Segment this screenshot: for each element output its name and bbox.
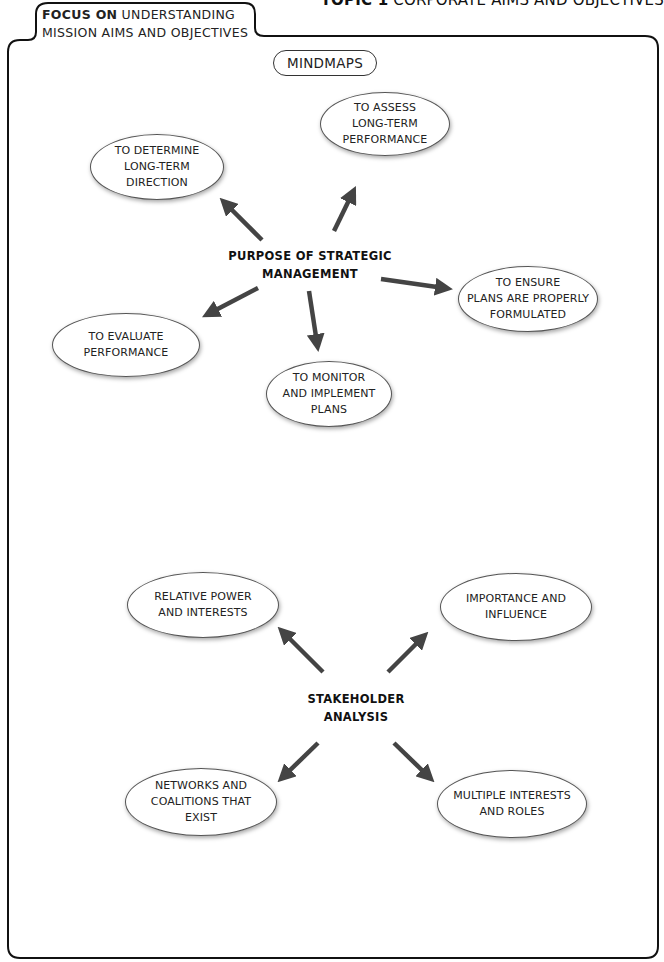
focus-rest: UNDERSTANDING [117, 7, 235, 22]
topic-header: TOPIC 1 CORPORATE AIMS AND OBJECTIVES [321, 0, 664, 9]
center-purpose-of-strategic-management: PURPOSE OF STRATEGIC MANAGEMENT [222, 247, 398, 283]
node-text: TO DETERMINE LONG-TERM DIRECTION [115, 143, 200, 191]
section-label-pill: MINDMAPS [273, 50, 377, 76]
topic-title: CORPORATE AIMS AND OBJECTIVES [393, 0, 664, 9]
node-text: RELATIVE POWER AND INTERESTS [154, 589, 252, 621]
node-text: TO MONITOR AND IMPLEMENT PLANS [283, 370, 376, 418]
node-multiple-interests: MULTIPLE INTERESTS AND ROLES [437, 770, 587, 838]
node-text: MULTIPLE INTERESTS AND ROLES [453, 788, 571, 820]
node-text: TO ASSESS LONG-TERM PERFORMANCE [343, 100, 428, 148]
node-ensure-plans: TO ENSURE PLANS ARE PROPERLY FORMULATED [458, 266, 598, 332]
node-relative-power: RELATIVE POWER AND INTERESTS [127, 572, 279, 638]
node-evaluate-performance: TO EVALUATE PERFORMANCE [52, 313, 200, 377]
node-text: TO EVALUATE PERFORMANCE [84, 329, 169, 361]
node-determine-direction: TO DETERMINE LONG-TERM DIRECTION [90, 134, 224, 200]
node-text: TO ENSURE PLANS ARE PROPERLY FORMULATED [467, 275, 589, 323]
topic-label: TOPIC 1 [321, 0, 389, 9]
center-stakeholder-analysis: STAKEHOLDER ANALYSIS [286, 690, 426, 726]
node-networks-coalitions: NETWORKS AND COALITIONS THAT EXIST [125, 768, 277, 836]
focus-line2: MISSION AIMS AND OBJECTIVES [42, 24, 248, 42]
node-text: NETWORKS AND COALITIONS THAT EXIST [151, 778, 251, 826]
node-text: IMPORTANCE AND INFLUENCE [466, 591, 566, 623]
focus-tab: FOCUS ON UNDERSTANDING MISSION AIMS AND … [42, 6, 248, 42]
focus-bold: FOCUS ON [42, 7, 117, 22]
node-assess-performance: TO ASSESS LONG-TERM PERFORMANCE [320, 92, 450, 156]
node-importance-influence: IMPORTANCE AND INFLUENCE [440, 573, 592, 641]
node-monitor-implement: TO MONITOR AND IMPLEMENT PLANS [266, 361, 392, 427]
